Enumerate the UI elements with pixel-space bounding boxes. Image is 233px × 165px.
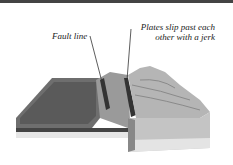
right-plate-top [128, 66, 210, 120]
fault-block-diagram [0, 0, 233, 165]
fault-line-pointer [90, 36, 102, 82]
plates-pointer [127, 29, 131, 80]
